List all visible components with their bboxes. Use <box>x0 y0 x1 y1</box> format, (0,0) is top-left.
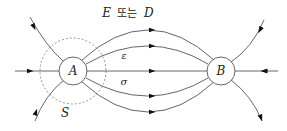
node-a-label: A <box>68 64 78 78</box>
surface-s-label: S <box>61 106 69 120</box>
node-b-label: B <box>216 64 226 78</box>
field-title-label: E 또는 D <box>101 6 154 20</box>
field-lines-into-a <box>15 17 64 121</box>
sigma-label: σ <box>121 76 129 87</box>
epsilon-label: ε <box>122 51 127 61</box>
field-lines-diagram: A B E 또는 D ε σ S <box>0 0 287 131</box>
field-lines-a-to-b <box>82 30 214 112</box>
field-lines-into-b <box>231 20 278 121</box>
